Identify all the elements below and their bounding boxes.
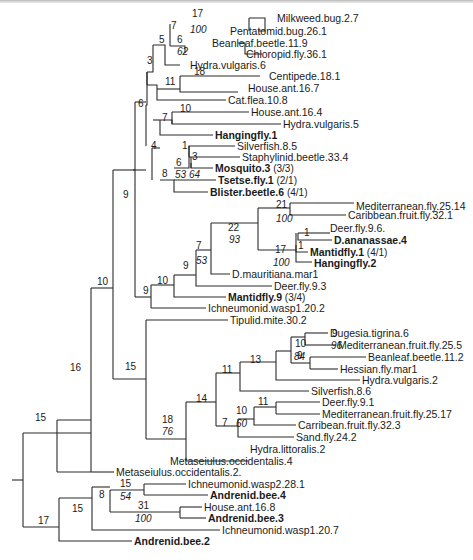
leaf-name: Cat.flea.10.8 <box>228 94 288 106</box>
leaf-label: Andrenid.bee.3 <box>208 512 284 524</box>
leaf-name: Deer.fly.9.1 <box>322 396 374 408</box>
leaf-label: Ichneumonid.wasp1.20.2 <box>208 302 325 314</box>
branch-length: 1 <box>182 140 188 151</box>
leaf-label: Blister.beetle.6 (4/1) <box>210 186 307 199</box>
bootstrap-value: 96 <box>331 340 342 351</box>
leaf-name: Tsetse.fly.1 <box>218 174 274 186</box>
bootstrap-value: 53 <box>175 169 186 180</box>
branch-length: 11 <box>165 76 175 87</box>
branch-length: 21 <box>276 199 287 210</box>
branch-length: 6 <box>138 98 144 109</box>
tree-branch <box>191 163 213 168</box>
leaf-name: Hydra.vulgaris.5 <box>283 118 359 130</box>
branch-length: 3 <box>192 151 198 162</box>
bootstrap-value: 54 <box>120 491 131 502</box>
tree-branch <box>92 487 220 530</box>
branch-length: 11 <box>222 364 232 375</box>
branch-length: 16 <box>70 362 81 373</box>
leaf-name: Caribbean.fruit.fly.32.1 <box>348 209 453 221</box>
leaf-name: Ichneumonid.wasp1.20.2 <box>208 302 325 314</box>
leaf-label: Mediterranean.fruit.fly.25.5 <box>338 339 462 351</box>
bootstrap-value: 76 <box>162 426 173 437</box>
branch-length: 7 <box>222 417 228 428</box>
leaf-name: House.ant.16.4 <box>251 106 322 118</box>
tree-branch <box>160 180 208 192</box>
leaf-name: Pentatomid.bug.26.1 <box>230 25 327 37</box>
branch-length: 6 <box>176 157 182 168</box>
leaf-name: Deer.fly.9.6. <box>330 222 385 234</box>
leaf-name: Mediterranean.fruit.fly.25.5 <box>338 339 462 351</box>
branch-length: 3 <box>147 55 153 66</box>
leaf-name: Carribean.fruit.fly.32.3 <box>298 419 401 431</box>
leaf-label: Metaseiulus.occidentalis.2. <box>116 466 241 478</box>
branch-length: 7 <box>171 20 177 31</box>
branch-length: 8 <box>162 168 168 179</box>
leaf-label: Beanleaf.beetle.11.2 <box>368 351 464 363</box>
leaf-label: Deer.fly.9.1 <box>322 396 374 408</box>
leaf-label: Hangingfly.2 <box>314 257 376 269</box>
branch-length: 31 <box>138 500 149 511</box>
leaf-name: Ichneumonid.wasp1.20.7 <box>222 524 339 536</box>
branch-length: 5 <box>159 34 165 45</box>
branch-length: 10 <box>236 405 247 416</box>
leaf-label: Dugesia.tigrina.6 <box>330 327 409 339</box>
branch-length: 9 <box>183 260 189 271</box>
branch-length: 22 <box>228 222 239 233</box>
leaf-name: D.mauritiana.mar1 <box>232 268 318 280</box>
branch-length: 15 <box>125 361 136 372</box>
leaf-label: D.ananassae.4 <box>334 234 407 246</box>
branch-length: 1 <box>298 240 304 251</box>
bootstrap-value: 64 <box>189 169 200 180</box>
branch-length: 10 <box>97 276 108 287</box>
leaf-label: Centipede.18.1 <box>269 70 340 82</box>
bootstrap-value: 60 <box>236 418 247 429</box>
tree-branch <box>153 45 180 65</box>
tree-branch <box>59 498 132 541</box>
leaf-label: Ichneumonid.wasp1.20.7 <box>222 524 339 536</box>
branch-length: 15 <box>72 503 83 514</box>
leaf-label: Deer.fly.9.6. <box>330 222 385 234</box>
branch-length: 7 <box>162 112 168 123</box>
branch-length: 8 <box>99 489 105 500</box>
branch-length: 6 <box>177 34 183 45</box>
tree-branch <box>254 407 296 425</box>
leaf-label: Tipulid.mite.30.2 <box>230 314 307 326</box>
branch-length: 15 <box>35 412 46 423</box>
leaf-label: Hydra.littoralis.2 <box>250 443 325 455</box>
bootstrap-value: 100 <box>135 513 152 524</box>
leaf-name: House.ant.16.7 <box>248 82 319 94</box>
leaf-count-suffix: (3/3) <box>270 163 293 174</box>
tree-branch <box>146 72 147 105</box>
leaf-name: Hydra.littoralis.2 <box>250 443 325 455</box>
branch-length: 10 <box>295 338 306 349</box>
branch-length: 15 <box>120 478 131 489</box>
bootstrap-value: 53 <box>196 255 207 266</box>
branch-length: 11 <box>258 396 268 407</box>
leaf-name: Tipulid.mite.30.2 <box>230 314 307 326</box>
tree-branch <box>290 203 346 215</box>
leaf-label: Hydra.vulgaris.2 <box>362 374 438 386</box>
leaf-name: Centipede.18.1 <box>269 70 340 82</box>
bootstrap-value: 62 <box>177 46 188 57</box>
branch-length: 17 <box>38 515 49 526</box>
branch-length: 18 <box>162 414 173 425</box>
bootstrap-value: 100 <box>276 213 293 224</box>
branch-length: 9 <box>143 285 149 296</box>
leaf-label: Andrenid.bee.2 <box>134 535 210 547</box>
leaf-name: D.ananassae.4 <box>334 234 407 246</box>
leaf-label: Andrenid.bee.4 <box>210 489 286 501</box>
leaf-name: Sand.fly.24.2 <box>296 431 357 443</box>
leaf-name: Andrenid.bee.2 <box>134 535 210 547</box>
leaf-count-suffix: (4/1) <box>284 187 307 198</box>
leaf-name: Mosquito.3 <box>215 162 270 174</box>
branch-length: 9 <box>123 189 129 200</box>
leaf-name: Milkweed.bug.2.7 <box>277 12 359 24</box>
leaf-label: Pentatomid.bug.26.1 <box>230 25 327 37</box>
bootstrap-value: 84 <box>294 351 305 362</box>
tree-branch <box>160 120 281 124</box>
leaf-name: Metaseiulus.occidentalis.2. <box>116 466 241 478</box>
leaf-name: Andrenid.bee.3 <box>208 512 284 524</box>
leaf-label: Caribbean.fruit.fly.32.1 <box>348 209 453 221</box>
branch-length: 13 <box>250 354 261 365</box>
branch-length: 17 <box>275 244 286 255</box>
